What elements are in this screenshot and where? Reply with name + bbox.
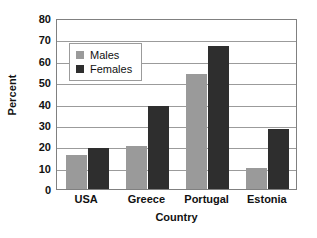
bar-greece-males xyxy=(126,146,147,189)
legend-item-males: Males xyxy=(76,48,132,62)
plot-area: MalesFemales xyxy=(56,19,297,190)
bar-portugal-males xyxy=(186,74,207,189)
y-axis-tick-label: 30 xyxy=(39,120,51,132)
males-swatch-icon xyxy=(76,51,84,59)
bar-usa-males xyxy=(66,155,87,189)
legend-item-females: Females xyxy=(76,62,132,76)
females-swatch-icon xyxy=(76,65,84,73)
bar-usa-females xyxy=(88,148,109,189)
legend-label: Females xyxy=(90,63,132,75)
x-axis-tick-label: Estonia xyxy=(247,193,287,205)
y-axis-tick-labels: 01020304050607080 xyxy=(24,19,55,190)
y-axis-tick-label: 10 xyxy=(39,163,51,175)
bar-estonia-males xyxy=(246,168,267,189)
y-axis-tick-label: 40 xyxy=(39,99,51,111)
bar-portugal-females xyxy=(208,46,229,189)
y-axis-tick-label: 70 xyxy=(39,34,51,46)
y-axis-tick-label: 60 xyxy=(39,56,51,68)
x-axis-title: Country xyxy=(56,211,297,223)
x-axis-tick-label: USA xyxy=(75,193,98,205)
x-axis-tick-label: Greece xyxy=(128,193,165,205)
y-axis-tick-label: 20 xyxy=(39,141,51,153)
bar-estonia-females xyxy=(268,129,289,189)
x-axis-tick-labels: USAGreecePortugalEstonia xyxy=(56,193,297,209)
y-axis-tick-label: 0 xyxy=(45,184,51,196)
y-axis-tick-label: 50 xyxy=(39,77,51,89)
chart-legend: MalesFemales xyxy=(69,43,142,81)
x-axis-tick-label: Portugal xyxy=(184,193,229,205)
y-axis-tick-label: 80 xyxy=(39,13,51,25)
bar-greece-females xyxy=(148,106,169,189)
y-axis-title: Percent xyxy=(0,0,24,190)
bar-chart: Percent 01020304050607080 MalesFemales U… xyxy=(0,0,317,238)
legend-label: Males xyxy=(90,49,119,61)
y-axis-title-text: Percent xyxy=(6,74,18,115)
